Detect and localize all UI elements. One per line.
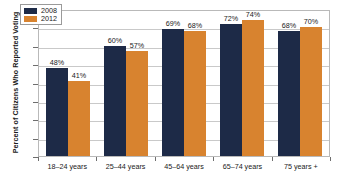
x-axis-tick-mark	[213, 157, 214, 161]
bar-2012-4[interactable]: 70%	[300, 27, 322, 156]
x-axis-tick-mark	[155, 157, 156, 161]
x-axis-tick-label: 65–74 years	[213, 162, 271, 171]
bar-value-label: 60%	[108, 36, 122, 45]
bar-value-label: 68%	[282, 21, 296, 30]
x-axis-tick-mark	[272, 157, 273, 161]
bar-2012-2[interactable]: 68%	[184, 31, 206, 156]
plot-area: 48%41%60%57%69%68%72%74%68%70%	[38, 10, 330, 157]
bar-2012-0[interactable]: 41%	[68, 81, 90, 156]
legend-swatch-icon-2012	[24, 16, 37, 22]
bar-2008-0[interactable]: 48%	[46, 68, 68, 156]
bar-2008-4[interactable]: 68%	[278, 31, 300, 156]
bar-group: 48%41%	[39, 11, 97, 156]
bar-2008-2[interactable]: 69%	[162, 29, 184, 156]
x-axis-tick-label: 75 years +	[272, 162, 330, 171]
x-axis-tick-label: 18–24 years	[38, 162, 96, 171]
bar-value-label: 72%	[224, 14, 238, 23]
x-axis-tick-mark	[96, 157, 97, 161]
legend-item-2008[interactable]: 2008	[24, 7, 57, 14]
legend-item-2012[interactable]: 2012	[24, 15, 57, 22]
bar-2012-3[interactable]: 74%	[242, 20, 264, 156]
bar-value-label: 74%	[246, 10, 260, 19]
y-axis-title: Percent of Citizens Who Reported Voting	[11, 8, 20, 158]
bar-groups: 48%41%60%57%69%68%72%74%68%70%	[39, 11, 329, 156]
bar-2008-1[interactable]: 60%	[104, 46, 126, 156]
bar-value-label: 41%	[72, 71, 86, 80]
legend-label-2012: 2012	[41, 15, 57, 22]
x-axis-tick-label: 25–44 years	[96, 162, 154, 171]
x-axis-tick-mark	[38, 157, 39, 161]
bar-2012-1[interactable]: 57%	[126, 51, 148, 156]
bar-group: 72%74%	[213, 11, 271, 156]
legend: 2008 2012	[20, 4, 62, 25]
bar-group: 60%57%	[97, 11, 155, 156]
x-axis-tick-labels: 18–24 years25–44 years45–64 years65–74 y…	[38, 162, 330, 171]
bar-value-label: 68%	[188, 21, 202, 30]
bar-value-label: 70%	[304, 17, 318, 26]
bar-value-label: 48%	[50, 58, 64, 67]
bar-group: 68%70%	[271, 11, 329, 156]
bar-value-label: 69%	[166, 19, 180, 28]
bar-group: 69%68%	[155, 11, 213, 156]
legend-label-2008: 2008	[41, 7, 57, 14]
legend-swatch-icon-2008	[24, 8, 37, 14]
x-axis-tick-label: 45–64 years	[155, 162, 213, 171]
bar-chart: Percent of Citizens Who Reported Voting …	[0, 0, 338, 180]
x-axis-tick-mark	[330, 157, 331, 161]
bar-2008-3[interactable]: 72%	[220, 24, 242, 156]
bar-value-label: 57%	[130, 41, 144, 50]
